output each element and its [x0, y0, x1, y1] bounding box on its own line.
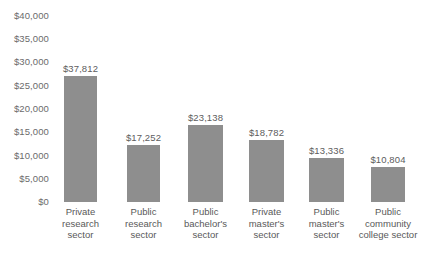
bar-chart: $40,000 $35,000 $30,000 $25,000 $20,000 …	[0, 0, 426, 260]
bar-value-label: $23,138	[188, 112, 223, 123]
y-axis-tick-label: $20,000	[0, 104, 49, 114]
bar-group: $37,812 Private research sector	[64, 76, 97, 202]
bar-group: $13,336 Public master's sector	[309, 158, 344, 202]
y-axis-tick-label: $40,000	[0, 11, 49, 21]
bar-value-label: $17,252	[126, 132, 161, 143]
bar-group: $10,804 Public community college sector	[371, 167, 405, 202]
x-axis-category-line: college sector	[345, 229, 426, 241]
y-axis-tick-label: $15,000	[0, 127, 49, 137]
plot-area: $37,812 Private research sector $17,252 …	[58, 0, 426, 260]
bar-value-label: $37,812	[63, 63, 98, 74]
y-axis-tick-label: $30,000	[0, 57, 49, 67]
bar-rect[interactable]	[249, 140, 284, 202]
bar-rect[interactable]	[127, 145, 160, 202]
bar-value-label: $18,782	[249, 127, 284, 138]
y-axis-tick-label: $25,000	[0, 81, 49, 91]
y-axis-tick-label: $0	[0, 197, 49, 207]
bar-rect[interactable]	[371, 167, 405, 202]
bar-value-label: $10,804	[370, 154, 405, 165]
bar-group: $18,782 Private master's sector	[249, 140, 284, 202]
y-axis-tick-label: $10,000	[0, 151, 49, 161]
x-axis-category-line: Public	[345, 206, 426, 218]
y-axis-tick-label: $5,000	[0, 174, 49, 184]
x-axis-category-label: Public community college sector	[345, 206, 426, 241]
bar-group: $23,138 Public bachelor's sector	[188, 125, 223, 202]
x-axis-category-line: community	[345, 218, 426, 230]
bar-rect[interactable]	[64, 76, 97, 202]
bar-rect[interactable]	[188, 125, 223, 202]
bar-rect[interactable]	[309, 158, 344, 202]
bar-value-label: $13,336	[309, 145, 344, 156]
bar-group: $17,252 Public research sector	[127, 145, 160, 202]
y-axis-tick-label: $35,000	[0, 34, 49, 44]
